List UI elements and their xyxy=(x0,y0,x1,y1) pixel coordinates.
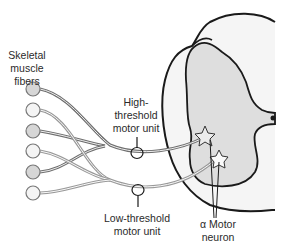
muscle-fiber xyxy=(26,186,40,200)
label-low-threshold-motor-unit: Low-threshold motor unit xyxy=(92,212,182,238)
muscle-fiber xyxy=(26,165,40,179)
label-skeletal-muscle-fibers: Skeletal muscle fibers xyxy=(0,49,54,88)
label-alpha-motor-neuron: α Motor neuron xyxy=(194,218,242,244)
muscle-fiber xyxy=(26,124,40,138)
muscle-fiber xyxy=(26,144,40,158)
bundle-markers xyxy=(131,137,144,207)
muscle-fiber xyxy=(26,103,40,117)
label-high-threshold-motor-unit: High- threshold motor unit xyxy=(100,96,172,135)
muscle-fibers xyxy=(26,82,40,200)
